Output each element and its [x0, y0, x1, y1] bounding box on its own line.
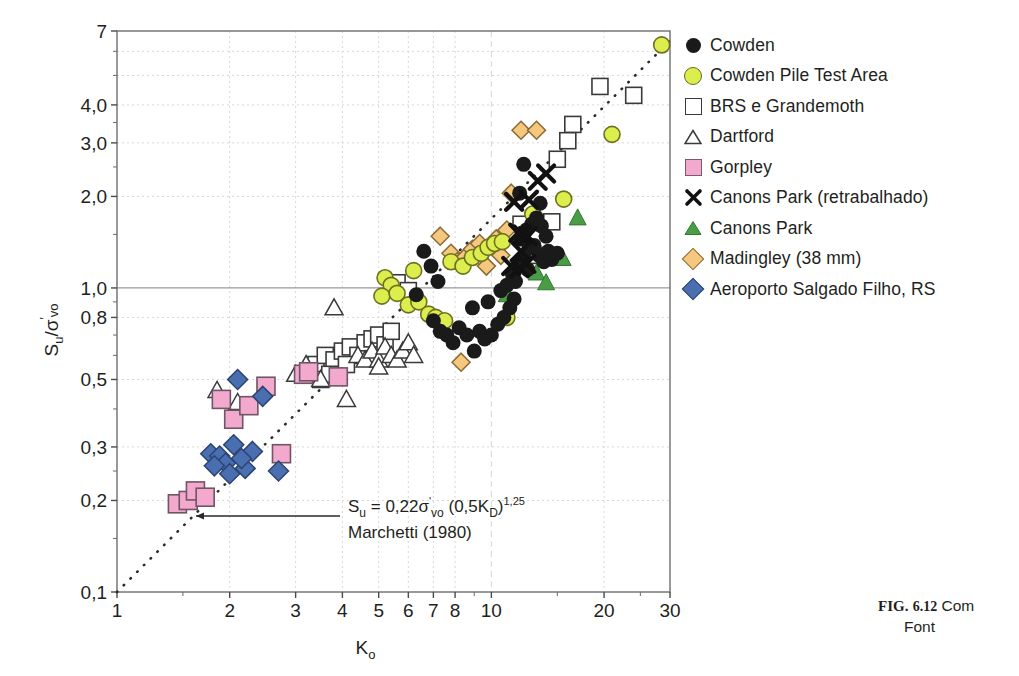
legend-item-label: Aeroporto Salgado Filho, RS	[710, 279, 935, 300]
legend-item[interactable]: Canons Park (retrabalhado)	[676, 183, 1019, 214]
legend-item-label: Madingley (38 mm)	[710, 248, 861, 269]
y-axis-tick-label: 3,0	[81, 133, 107, 154]
legend-item[interactable]: Madingley (38 mm)	[676, 244, 1019, 275]
x-axis-tick-label: 2	[224, 600, 235, 621]
x-axis-tick-label: 30	[659, 600, 680, 621]
x-axis-tick-label: 5	[373, 600, 384, 621]
scatter-plot: 0,10,20,30,50,81,02,03,04,07123456781020…	[0, 0, 690, 676]
figure-root: 0,10,20,30,50,81,02,03,04,07123456781020…	[0, 0, 1019, 676]
legend-item[interactable]: Canons Park	[676, 213, 1019, 244]
x-axis-tick-label: 8	[450, 600, 461, 621]
legend-symbol	[676, 152, 710, 182]
y-axis-title: Su/σ′vo	[38, 304, 66, 357]
annotation-equation: Su = 0,22σ'vo (0,5KD)1,25	[348, 495, 525, 520]
y-axis-tick-label: 7	[96, 21, 107, 42]
caption-fig-number: 6.12	[913, 599, 938, 614]
caption-text-1: Com	[942, 597, 975, 614]
legend-symbol	[676, 183, 710, 213]
legend-marker-triangle-white-icon	[684, 129, 702, 145]
legend-item[interactable]: Aeroporto Salgado Filho, RS	[676, 274, 1019, 305]
legend-marker-square-pink-icon	[685, 159, 702, 176]
y-axis-tick-label: 0,3	[81, 437, 107, 458]
series-triangle-white	[208, 299, 423, 410]
y-axis-tick-label: 0,8	[81, 307, 107, 328]
legend-marker-circle-yellow-icon	[684, 67, 702, 85]
legend-symbol	[676, 91, 710, 121]
series-square-white	[308, 78, 642, 387]
caption-line-1: FIG. 6.12 Com	[878, 596, 1019, 617]
x-axis-tick-label: 20	[594, 600, 615, 621]
x-axis-tick-label: 3	[290, 600, 301, 621]
y-axis-tick-label: 0,5	[81, 369, 107, 390]
caption-fig-label: FIG.	[878, 598, 908, 614]
legend-item-label: Gorpley	[710, 157, 772, 178]
legend-marker-x-icon	[684, 188, 703, 207]
figure-caption: FIG. 6.12 Com Font	[878, 596, 1019, 638]
legend-item[interactable]: Dartford	[676, 122, 1019, 153]
x-axis-tick-label: 6	[403, 600, 414, 621]
y-axis-tick-label: 0,1	[81, 582, 107, 603]
x-axis-tick-label: 10	[481, 600, 502, 621]
legend-item[interactable]: Cowden	[676, 30, 1019, 61]
chart-container: 0,10,20,30,50,81,02,03,04,07123456781020…	[0, 0, 690, 676]
legend-item-label: Canons Park	[710, 218, 812, 239]
legend-item-label: Canons Park (retrabalhado)	[710, 187, 929, 208]
x-axis-tick-label: 1	[112, 600, 123, 621]
legend-symbol	[676, 213, 710, 243]
legend-item-label: Dartford	[710, 126, 774, 147]
caption-line-2: Font	[878, 617, 1019, 638]
annotation-reference: Marchetti (1980)	[348, 523, 472, 542]
legend-item[interactable]: Gorpley	[676, 152, 1019, 183]
chart-legend: CowdenCowden Pile Test AreaBRS e Grandem…	[676, 30, 1019, 305]
legend-item[interactable]: BRS e Grandemoth	[676, 91, 1019, 122]
legend-item-label: Cowden	[710, 35, 775, 56]
x-axis-tick-label: 4	[337, 600, 348, 621]
y-axis-tick-label: 1,0	[81, 278, 107, 299]
y-axis-tick-label: 2,0	[81, 186, 107, 207]
legend-marker-diamond-orange-icon	[682, 247, 705, 270]
legend-symbol	[676, 274, 710, 304]
legend-symbol	[676, 122, 710, 152]
legend-marker-diamond-blue-icon	[682, 278, 705, 301]
legend-item-label: BRS e Grandemoth	[710, 96, 864, 117]
legend-marker-square-white-icon	[685, 98, 702, 115]
legend-symbol	[676, 61, 710, 91]
legend-item-label: Cowden Pile Test Area	[710, 65, 888, 86]
y-axis-tick-label: 4,0	[81, 95, 107, 116]
legend-symbol	[676, 30, 710, 60]
legend-marker-triangle-green-icon	[684, 220, 702, 236]
y-axis-tick-label: 0,2	[81, 490, 107, 511]
legend-symbol	[676, 244, 710, 274]
x-axis-title: Ko	[356, 637, 376, 662]
x-axis-tick-label: 7	[428, 600, 439, 621]
legend-item[interactable]: Cowden Pile Test Area	[676, 61, 1019, 92]
legend-marker-circle-black-icon	[686, 38, 701, 53]
